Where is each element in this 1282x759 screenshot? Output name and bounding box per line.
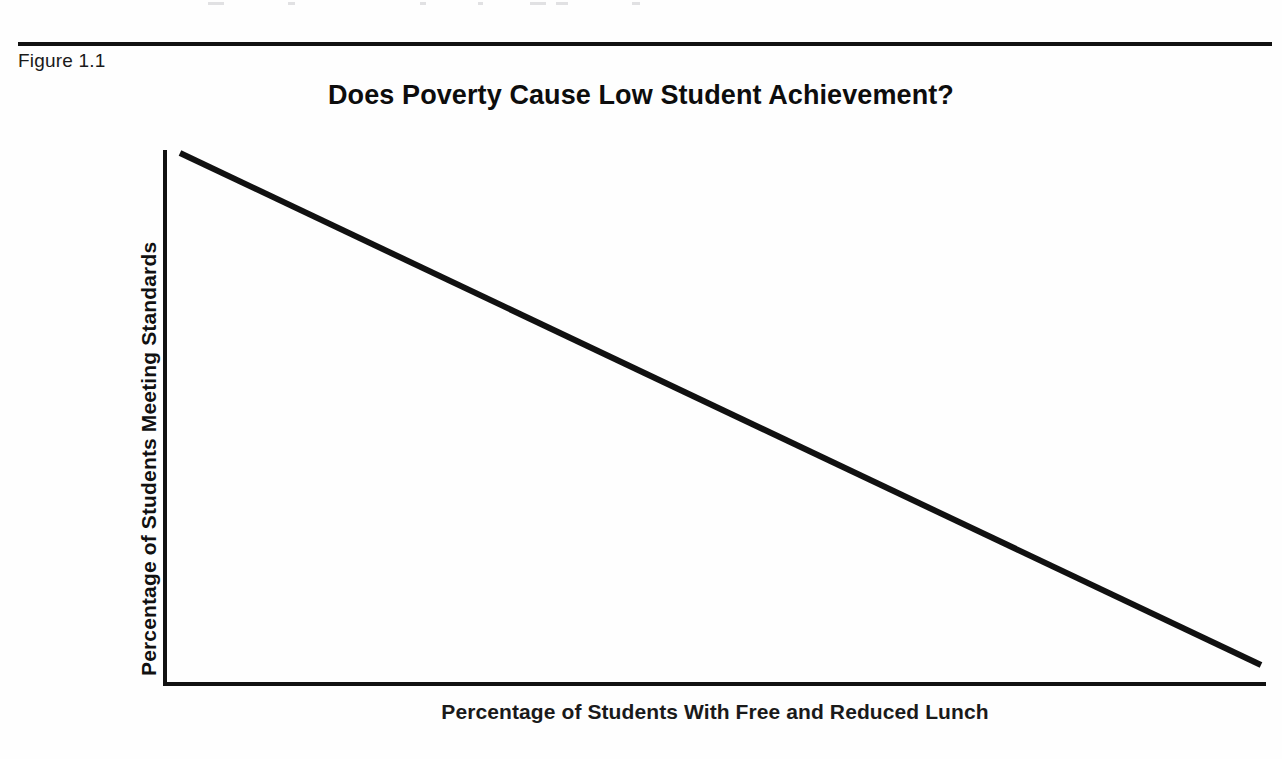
figure-page: Figure 1.1 Does Poverty Cause Low Studen… <box>0 0 1282 759</box>
y-axis-label: Percentage of Students Meeting Standards <box>127 136 171 676</box>
trend-line-series <box>180 153 1261 665</box>
chart-canvas <box>0 0 1282 759</box>
x-axis-label: Percentage of Students With Free and Red… <box>165 700 1265 724</box>
line-chart-svg <box>0 0 1282 759</box>
